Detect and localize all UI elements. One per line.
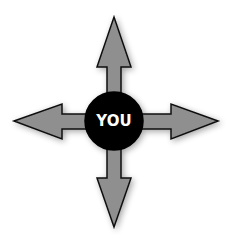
arrow-left-icon — [14, 104, 92, 139]
arrow-down-icon — [97, 142, 131, 227]
center-label: YOU — [85, 92, 143, 150]
arrow-right-icon — [136, 104, 218, 139]
you-compass-diagram: YOU — [0, 0, 234, 244]
arrow-up-icon — [97, 17, 131, 100]
